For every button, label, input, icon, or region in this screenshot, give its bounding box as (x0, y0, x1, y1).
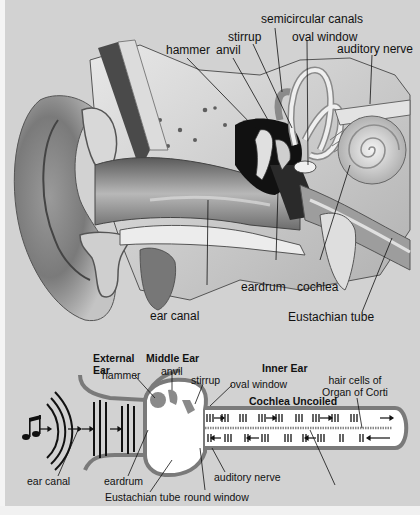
arrow-icon (40, 427, 121, 431)
schematic-label-anvil: anvil (161, 366, 183, 377)
header-cochlea-uncoiled: Cochlea Uncoiled (249, 396, 337, 407)
label-auditory-nerve: auditory nerve (337, 43, 413, 55)
schematic-label-stirrup: stirrup (191, 375, 220, 386)
middle-ear-chamber (145, 380, 206, 475)
schematic-label-eardrum: eardrum (104, 476, 143, 487)
schematic-label-eustachian-tube: Eustachian tube (105, 492, 180, 503)
arrow-icon (211, 416, 393, 440)
schematic-label-oval-window: oval window (230, 379, 287, 390)
schematic-label-round-window: round window (184, 492, 249, 503)
music-note-icon (22, 415, 41, 440)
label-eustachian-tube: Eustachian tube (288, 311, 374, 323)
hammer-schematic (150, 392, 166, 408)
label-eardrum: eardrum (241, 281, 286, 293)
bottom-border (0, 506, 420, 515)
uncoiled-cochlea-tube (205, 408, 406, 448)
stirrup-schematic (182, 400, 195, 414)
schematic-label-ear-canal: ear canal (27, 476, 70, 487)
stirrup-bone (294, 161, 316, 173)
header-inner-ear: Inner Ear (262, 363, 308, 374)
schematic-label-hammer: hammer (102, 370, 141, 381)
label-semicircular-canals: semicircular canals (261, 13, 363, 25)
label-cochlea: cochlea (297, 281, 338, 293)
anvil-schematic (168, 390, 177, 405)
schematic-label-hair-cells: hair cells of Organ of Corti (322, 375, 388, 397)
sound-wave-bars (207, 414, 363, 442)
leader-lines-bottom (58, 372, 362, 492)
label-stirrup: stirrup (228, 31, 261, 43)
header-middle-ear: Middle Ear (146, 353, 199, 364)
label-anvil: anvil (216, 44, 241, 56)
sound-wave-icon (47, 392, 134, 470)
ear-anatomy-diagram: semicircular canals stirrup oval window … (0, 0, 420, 515)
schematic-label-auditory-nerve: auditory nerve (214, 472, 281, 483)
label-ear-canal: ear canal (150, 310, 199, 322)
label-hammer: hammer (166, 44, 210, 56)
